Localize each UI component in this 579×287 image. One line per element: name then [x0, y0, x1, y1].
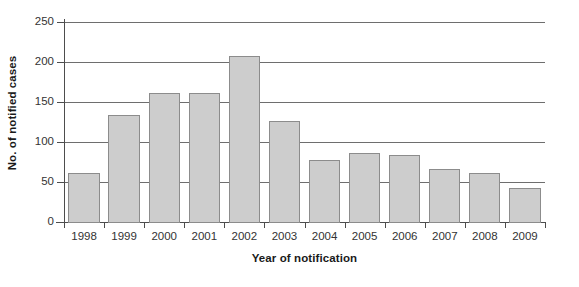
bars-layer	[64, 22, 545, 223]
y-axis-tick-label: 150	[22, 96, 54, 108]
x-axis-tick-mark	[184, 222, 185, 228]
x-axis-tick-mark	[465, 222, 466, 228]
bar	[469, 173, 500, 223]
x-axis-tick-label: 2004	[305, 231, 345, 243]
x-axis-tick-mark	[104, 222, 105, 228]
bar	[509, 188, 540, 223]
x-axis-tick-mark	[505, 222, 506, 228]
y-axis-tick-labels: 050100150200250	[20, 0, 54, 287]
bar	[349, 153, 380, 223]
bar	[189, 93, 220, 223]
y-axis-tick-label: 200	[22, 56, 54, 68]
x-axis-tick-label: 1999	[104, 231, 144, 243]
x-axis-tick-mark	[385, 222, 386, 228]
bar	[108, 115, 139, 223]
x-axis-tick-label: 2007	[425, 231, 465, 243]
x-axis-tick-mark	[545, 222, 546, 228]
bar	[309, 160, 340, 223]
x-axis-tick-mark	[144, 222, 145, 228]
x-axis-tick-label: 2001	[184, 231, 224, 243]
x-axis-tick-label: 2005	[345, 231, 385, 243]
x-axis-tick-mark	[345, 222, 346, 228]
x-axis-tick-label: 1998	[64, 231, 104, 243]
bar	[229, 56, 260, 223]
bar	[429, 169, 460, 223]
x-axis-tick-mark	[305, 222, 306, 228]
x-axis-tick-label: 2009	[505, 231, 545, 243]
x-axis-tick-label: 2006	[385, 231, 425, 243]
y-axis-tick-label: 250	[22, 16, 54, 28]
y-axis-tick-label: 50	[22, 176, 54, 188]
bar	[269, 121, 300, 223]
x-axis-tick-label: 2008	[465, 231, 505, 243]
x-axis-tick-label: 2003	[264, 231, 304, 243]
y-axis-tick-label: 0	[22, 216, 54, 228]
x-axis-tick-label: 2000	[144, 231, 184, 243]
x-axis-tick-mark	[64, 222, 65, 228]
bar-chart: No. of notified cases 050100150200250 19…	[0, 0, 579, 287]
x-axis-title: Year of notification	[64, 252, 545, 264]
bar	[149, 93, 180, 223]
x-axis-tick-mark	[224, 222, 225, 228]
y-axis-title-text: No. of notified cases	[6, 55, 18, 170]
x-axis-tick-mark	[264, 222, 265, 228]
x-axis-tick-mark	[425, 222, 426, 228]
bar	[389, 155, 420, 223]
y-axis-tick-label: 100	[22, 136, 54, 148]
x-axis-tick-label: 2002	[224, 231, 264, 243]
bar	[68, 173, 99, 223]
